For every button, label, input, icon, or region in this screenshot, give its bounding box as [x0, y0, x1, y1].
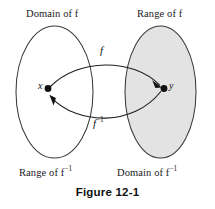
domain-of-f-inverse-label: Domain of f−1 [117, 165, 177, 178]
inverse-map-label: f−1 [93, 116, 104, 129]
inverse-map-label-exponent: −1 [96, 116, 104, 124]
forward-map-label-text: f [100, 44, 103, 56]
figure-12-1-container: Domain of f Range of f Range of f−1 Doma… [0, 0, 215, 209]
range-of-f-inverse-base: Range of f [19, 167, 64, 178]
point-y-text: y [169, 80, 173, 91]
domain-of-f-text: Domain of f [26, 8, 78, 19]
domain-of-f-label: Domain of f [26, 8, 78, 19]
point-x-label: x [38, 80, 42, 91]
forward-map-label: f [100, 44, 103, 56]
domain-of-f-inverse-base: Domain of f [117, 167, 169, 178]
point-y-label: y [169, 80, 173, 91]
range-of-f-inverse-label: Range of f−1 [19, 165, 72, 178]
point-x-text: x [38, 80, 42, 91]
figure-caption-text: Figure 12-1 [76, 186, 140, 198]
range-of-f-label: Range of f [137, 8, 182, 19]
point-y-dot [161, 85, 168, 92]
figure-caption: Figure 12-1 [0, 186, 215, 198]
mapping-diagram [0, 0, 215, 209]
domain-of-f-ellipse [16, 26, 93, 158]
domain-of-f-inverse-exponent: −1 [169, 165, 177, 173]
range-of-f-text: Range of f [137, 8, 182, 19]
range-of-f-inverse-exponent: −1 [64, 165, 72, 173]
point-x-dot [45, 85, 52, 92]
